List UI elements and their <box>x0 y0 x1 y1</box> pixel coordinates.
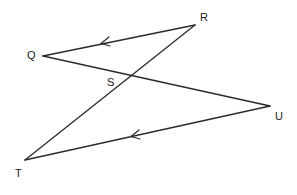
label-q: Q <box>27 49 36 61</box>
segment-qu <box>43 56 270 106</box>
segment-ut <box>25 106 270 160</box>
geometry-diagram: Q R S T U <box>0 0 297 195</box>
parallel-arrow-icon-rq <box>101 37 110 46</box>
label-r: R <box>200 11 208 23</box>
label-s: S <box>107 76 114 88</box>
label-t: T <box>15 167 22 179</box>
segment-rq <box>43 25 195 56</box>
label-u: U <box>275 110 283 122</box>
segment-rt <box>25 25 195 160</box>
